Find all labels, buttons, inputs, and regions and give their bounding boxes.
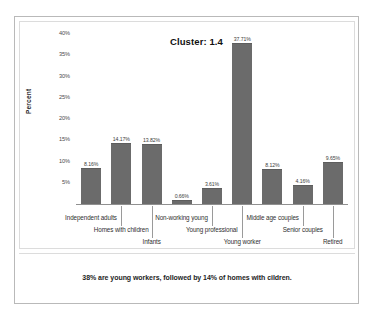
- bar-slot: 0.66%: [167, 34, 197, 204]
- bar: [323, 162, 343, 204]
- bar-value-label: 14.17%: [113, 136, 130, 142]
- bar-value-label: 37.71%: [234, 36, 251, 42]
- x-category-label: Non-working young: [155, 214, 208, 221]
- y-tick-label: 35%: [40, 51, 70, 57]
- label-leader-line: [121, 206, 122, 226]
- x-category-label: Retired: [323, 238, 343, 245]
- y-tick-label: 5%: [40, 179, 70, 185]
- label-leader-line: [333, 206, 334, 238]
- bar: [111, 143, 131, 204]
- chart-outer-frame: Cluster: 1.4 Percent 5%10%15%20%25%30%35…: [14, 16, 359, 304]
- bar-slot: 14.17%: [106, 34, 136, 204]
- chart-caption: 38% are young workers, followed by 14% o…: [19, 274, 355, 281]
- bar-slot: 13.82%: [136, 34, 166, 204]
- bar-slot: 4.16%: [288, 34, 318, 204]
- bar: [142, 144, 162, 204]
- plot-area: Cluster: 1.4 Percent 5%10%15%20%25%30%35…: [20, 22, 354, 248]
- x-category-label: Young professional: [186, 226, 238, 233]
- bar-value-label: 8.16%: [84, 161, 98, 167]
- x-category-label: Senior couples: [283, 226, 323, 233]
- y-tick-label: 10%: [40, 158, 70, 164]
- y-tick-label: 25%: [40, 94, 70, 100]
- bar: [293, 185, 313, 204]
- bar: [262, 169, 282, 205]
- label-leader-line: [212, 206, 213, 226]
- bar: [232, 43, 252, 204]
- bar: [81, 168, 101, 204]
- y-axis-title: Percent: [25, 89, 32, 114]
- x-category-label: Homes with children: [94, 226, 149, 233]
- bar-slot: 8.12%: [257, 34, 287, 204]
- x-category-label: Infants: [143, 238, 161, 245]
- bar-slot: 3.61%: [197, 34, 227, 204]
- label-leader-line: [242, 206, 243, 238]
- bar-slot: 9.65%: [318, 34, 348, 204]
- label-leader-line: [303, 206, 304, 226]
- bar-value-label: 13.82%: [143, 137, 160, 143]
- label-leader-line: [152, 206, 153, 238]
- bar-value-label: 0.66%: [175, 193, 189, 199]
- y-tick-label: 20%: [40, 115, 70, 121]
- caption-band: 38% are young workers, followed by 14% o…: [19, 253, 355, 299]
- bar-value-label: 3.61%: [205, 181, 219, 187]
- x-category-label: Independent adults: [65, 214, 117, 221]
- bar: [202, 188, 222, 204]
- y-tick-label: 15%: [40, 136, 70, 142]
- y-tick-label: 30%: [40, 73, 70, 79]
- bar-slot: 37.71%: [227, 34, 257, 204]
- bar-value-label: 9.65%: [326, 155, 340, 161]
- bar-value-label: 8.12%: [265, 162, 279, 168]
- bar-value-label: 4.16%: [296, 178, 310, 184]
- x-axis-line: [76, 204, 348, 205]
- bars-container: 8.16%14.17%13.82%0.66%3.61%37.71%8.12%4.…: [76, 34, 348, 204]
- x-axis-category-labels: Independent adultsHomes with childrenInf…: [20, 206, 354, 252]
- chart-panel: Cluster: 1.4 Percent 5%10%15%20%25%30%35…: [19, 21, 355, 249]
- x-category-label: Middle age couples: [246, 214, 298, 221]
- bar-slot: 8.16%: [76, 34, 106, 204]
- x-category-label: Young worker: [224, 238, 261, 245]
- y-tick-label: 40%: [40, 30, 70, 36]
